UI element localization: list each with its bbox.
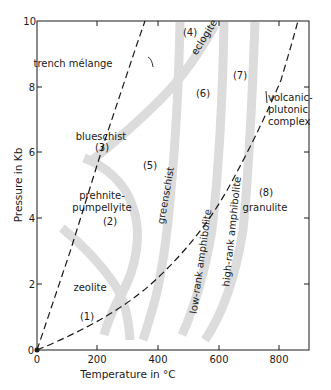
label-plutonic: plutonic [268, 104, 308, 115]
label-granulite: granulite [243, 202, 288, 213]
y-axis-title: Pressure in Kb [12, 147, 24, 222]
label-n7: (7) [233, 70, 247, 81]
x-tick-labels: 0 200 400 600 800 [34, 354, 289, 365]
x-axis-title: Temperature in °C [79, 368, 175, 380]
label-volcanic: volcanic- [268, 92, 313, 103]
label-trench-melange: trench mélange [34, 58, 113, 69]
x-tick-200: 200 [87, 354, 106, 365]
label-n6: (6) [196, 88, 210, 99]
label-complex: complex [268, 116, 310, 127]
label-n2: (2) [103, 216, 117, 227]
label-n8: (8) [259, 187, 273, 198]
trench-melange-curve [37, 21, 145, 350]
label-blueschist: blueschist [76, 131, 127, 142]
label-n4: (4) [183, 27, 197, 38]
y-tick-8: 8 [29, 82, 35, 93]
x-tick-800: 800 [269, 354, 288, 365]
band-greenschist [143, 22, 180, 340]
label-zeolite: zeolite [73, 282, 106, 293]
y-tick-2: 2 [29, 279, 35, 290]
y-tick-0: 0 [28, 345, 34, 356]
label-n3: (3) [95, 142, 109, 153]
region-labels: (1) zeolite prehnite- pumpellyite (2) bl… [34, 17, 314, 322]
x-tick-600: 600 [209, 354, 228, 365]
y-tick-6: 6 [29, 147, 35, 158]
label-prehnite: prehnite- [79, 190, 125, 201]
metamorphic-facies-diagram: 0 200 400 600 800 0 2 4 6 8 10 Temperatu… [0, 0, 331, 390]
y-tick-4: 4 [29, 213, 35, 224]
y-tick-10: 10 [23, 16, 36, 27]
volcanic-leader [266, 91, 267, 103]
x-tick-0: 0 [34, 354, 40, 365]
label-n5: (5) [143, 160, 157, 171]
origin-dot [35, 348, 40, 353]
label-pumpellyite: pumpellyite [72, 202, 131, 213]
trench-leader [148, 57, 153, 67]
label-n1: (1) [80, 311, 94, 322]
x-tick-400: 400 [148, 354, 167, 365]
